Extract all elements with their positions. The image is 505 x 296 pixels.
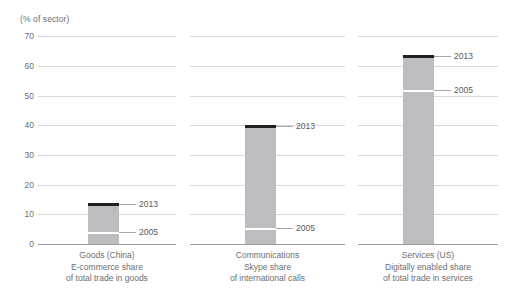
gridline-30 (38, 155, 176, 156)
gridline-60 (38, 66, 176, 67)
leader-line-2013 (276, 126, 293, 127)
panel-caption-goods-china: Goods (China) E-commerce share of total … (38, 250, 176, 285)
bar-marker-2005 (403, 90, 434, 92)
gridline-60 (190, 66, 345, 67)
bar-goods-china[interactable] (88, 203, 119, 244)
y-tick-40: 40 (10, 121, 34, 130)
caption-line-2: Digitally enabled share (352, 262, 504, 274)
caption-line-1: Communications (190, 250, 345, 262)
annotation-2013: 2013 (139, 200, 158, 209)
y-tick-70: 70 (10, 32, 34, 41)
annotation-2013: 2013 (296, 122, 315, 131)
gridline-70 (358, 36, 498, 37)
caption-line-3: of total trade in services (352, 273, 504, 285)
panel-communications: 2013 2005 Communications Skype share of … (190, 0, 345, 296)
panel-caption-communications: Communications Skype share of internatio… (190, 250, 345, 285)
leader-line-2013 (434, 56, 451, 57)
baseline-0 (358, 244, 498, 245)
y-tick-10: 10 (10, 210, 34, 219)
leader-line-2005 (434, 90, 451, 91)
baseline-0 (190, 244, 345, 245)
bar-services-us[interactable] (403, 55, 434, 244)
y-tick-20: 20 (10, 181, 34, 190)
gridline-50 (38, 96, 176, 97)
gridline-50 (190, 96, 345, 97)
caption-line-1: Services (US) (352, 250, 504, 262)
gridline-70 (190, 36, 345, 37)
y-tick-30: 30 (10, 151, 34, 160)
leader-line-2005 (276, 228, 293, 229)
bar-marker-2005 (245, 228, 276, 230)
y-tick-60: 60 (10, 62, 34, 71)
baseline-0 (38, 244, 176, 245)
bar-cap-2013 (403, 55, 434, 58)
annotation-2005: 2005 (454, 86, 473, 95)
panel-services-us: 2013 2005 Services (US) Digitally enable… (358, 0, 498, 296)
annotation-2005: 2005 (139, 228, 158, 237)
bar-communications[interactable] (245, 125, 276, 244)
annotation-2005: 2005 (296, 224, 315, 233)
y-tick-50: 50 (10, 92, 34, 101)
gridline-70 (38, 36, 176, 37)
bar-cap-2013 (88, 203, 119, 206)
gridline-40 (38, 125, 176, 126)
leader-line-2013 (119, 204, 136, 205)
leader-line-2005 (119, 232, 136, 233)
panel-caption-services-us: Services (US) Digitally enabled share of… (352, 250, 504, 285)
bar-marker-2005 (88, 232, 119, 234)
caption-line-3: of international calls (190, 273, 345, 285)
bar-cap-2013 (245, 125, 276, 128)
gridline-20 (38, 185, 176, 186)
chart-container: (% of sector) 70 60 50 40 30 20 10 0 201… (0, 0, 505, 296)
caption-line-2: E-commerce share (38, 262, 176, 274)
caption-line-1: Goods (China) (38, 250, 176, 262)
panel-goods-china: 2013 2005 Goods (China) E-commerce share… (38, 0, 176, 296)
caption-line-2: Skype share (190, 262, 345, 274)
caption-line-3: of total trade in goods (38, 273, 176, 285)
y-tick-0: 0 (10, 240, 34, 249)
annotation-2013: 2013 (454, 52, 473, 61)
